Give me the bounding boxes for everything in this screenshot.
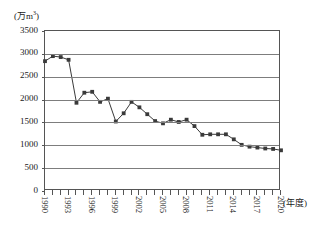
x-tick-mark <box>225 190 226 195</box>
x-tick-mark <box>91 190 92 195</box>
data-point <box>193 124 197 128</box>
series-markers <box>43 54 283 152</box>
y-tick-label: 2000 <box>8 94 38 103</box>
gridline <box>45 122 279 123</box>
gridline <box>45 54 279 55</box>
data-point <box>59 55 63 59</box>
y-tick-mark <box>42 122 45 123</box>
x-tick-mark <box>170 190 171 195</box>
x-tick-mark <box>280 190 281 195</box>
x-tick-mark <box>75 190 76 195</box>
data-point <box>263 147 267 151</box>
x-tick-mark <box>68 190 69 195</box>
y-tick-mark <box>42 168 45 169</box>
gridline <box>45 145 279 146</box>
data-point <box>90 90 94 94</box>
x-tick-mark <box>52 190 53 195</box>
plot-area <box>44 30 280 190</box>
x-tick-mark <box>272 190 273 195</box>
x-tick-label: 2008 <box>181 196 190 213</box>
x-tick-mark <box>107 190 108 195</box>
y-tick-mark <box>42 54 45 55</box>
data-point <box>145 112 149 116</box>
y-tick-label: 1000 <box>8 140 38 149</box>
x-tick-mark <box>99 190 100 195</box>
data-point <box>279 148 283 152</box>
data-point <box>82 91 86 95</box>
data-point <box>122 111 126 115</box>
y-tick-label: 500 <box>8 163 38 172</box>
y-tick-mark <box>42 31 45 32</box>
y-tick-mark <box>42 100 45 101</box>
data-point <box>67 58 71 62</box>
data-point <box>208 132 212 136</box>
x-tick-label: 1996 <box>87 196 96 213</box>
y-tick-label: 2500 <box>8 71 38 80</box>
x-tick-label: 2005 <box>158 196 167 213</box>
series-line <box>45 56 281 150</box>
data-point <box>169 118 173 122</box>
x-tick-mark <box>154 190 155 195</box>
data-point <box>224 132 228 136</box>
x-tick-mark <box>256 190 257 195</box>
x-tick-mark <box>131 190 132 195</box>
x-tick-mark <box>264 190 265 195</box>
y-tick-label: 3000 <box>8 48 38 57</box>
gridline <box>45 100 279 101</box>
y-tick-label: 3500 <box>8 26 38 35</box>
data-point <box>75 101 79 105</box>
data-point <box>232 137 236 141</box>
x-tick-label: 2017 <box>252 196 261 213</box>
x-tick-mark <box>249 190 250 195</box>
x-tick-mark <box>44 190 45 195</box>
line-series <box>45 31 281 191</box>
y-tick-label: 0 <box>8 186 38 195</box>
gridline <box>45 77 279 78</box>
data-point <box>43 59 47 63</box>
x-tick-label: 1993 <box>63 196 72 213</box>
x-tick-mark <box>186 190 187 195</box>
x-tick-mark <box>146 190 147 195</box>
x-tick-mark <box>233 190 234 195</box>
x-axis-labels: 1990199319961999200220052008201120142017… <box>0 196 326 239</box>
x-tick-label: 1999 <box>110 196 119 213</box>
x-tick-label: 2014 <box>228 196 237 213</box>
x-tick-mark <box>241 190 242 195</box>
x-tick-mark <box>115 190 116 195</box>
x-tick-mark <box>193 190 194 195</box>
x-axis-unit-label: (年度) <box>283 198 307 208</box>
gridline <box>45 168 279 169</box>
x-tick-mark <box>60 190 61 195</box>
y-axis-unit-label: (万m3) <box>14 8 39 21</box>
x-tick-mark <box>138 190 139 195</box>
data-point <box>200 133 204 137</box>
x-tick-mark <box>209 190 210 195</box>
x-tick-mark <box>201 190 202 195</box>
data-point <box>185 118 189 122</box>
y-tick-mark <box>42 145 45 146</box>
x-tick-mark <box>162 190 163 195</box>
data-point <box>271 147 275 151</box>
chart-figure: (万m3) 0500100015002000250030003500 19901… <box>0 0 326 239</box>
x-tick-mark <box>217 190 218 195</box>
x-tick-label: 2011 <box>205 196 214 213</box>
y-tick-label: 1500 <box>8 117 38 126</box>
x-tick-mark <box>83 190 84 195</box>
data-point <box>216 132 220 136</box>
data-point <box>138 105 142 109</box>
x-tick-label: 2002 <box>134 196 143 213</box>
x-tick-mark <box>123 190 124 195</box>
x-tick-label: 1990 <box>40 196 49 213</box>
y-tick-mark <box>42 77 45 78</box>
x-tick-mark <box>178 190 179 195</box>
